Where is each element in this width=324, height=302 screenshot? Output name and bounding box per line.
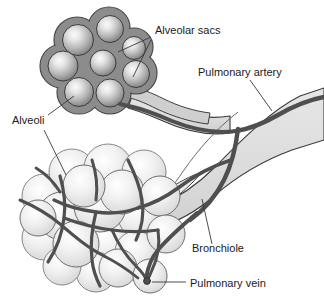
- sac-sphere: [63, 25, 94, 56]
- sac-sphere: [65, 78, 94, 107]
- alveolus: [147, 215, 185, 253]
- label-alveolar-sacs: Alveolar sacs: [155, 24, 221, 36]
- alveolus: [140, 176, 180, 216]
- sac-sphere: [123, 61, 150, 88]
- alveolus: [63, 165, 105, 207]
- leader-pulmonary-artery: [250, 80, 272, 111]
- sac-sphere: [48, 51, 78, 81]
- diagram-canvas: Alveolar sacs Pulmonary artery Alveoli B…: [0, 0, 324, 302]
- sac-sphere-center: [90, 50, 116, 76]
- label-bronchiole: Bronchiole: [192, 242, 244, 254]
- label-pulmonary-artery: Pulmonary artery: [198, 66, 282, 78]
- alveoli-cluster: [20, 144, 185, 293]
- label-alveoli: Alveoli: [12, 114, 44, 126]
- alveoli-spheres: [20, 144, 185, 293]
- sac-sphere: [97, 16, 124, 43]
- label-pulmonary-vein: Pulmonary vein: [190, 277, 266, 289]
- pulmonary-vein-node: [144, 278, 151, 285]
- anatomy-diagram: Alveolar sacs Pulmonary artery Alveoli B…: [0, 0, 324, 302]
